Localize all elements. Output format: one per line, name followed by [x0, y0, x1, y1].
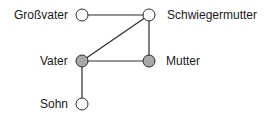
node-grossvater — [76, 9, 88, 21]
node-sohn — [76, 98, 88, 110]
node-vater — [76, 55, 88, 67]
node-schwiegermutter — [143, 9, 155, 21]
label-grossvater: Großvater — [14, 8, 68, 22]
label-schwiegermutter: Schwiegermutter — [167, 8, 257, 22]
edge-schwiegermutter-vater — [82, 15, 149, 61]
label-vater: Vater — [40, 54, 68, 68]
label-sohn: Sohn — [40, 97, 68, 111]
label-mutter: Mutter — [166, 54, 200, 68]
node-mutter — [143, 55, 155, 67]
edges — [82, 15, 149, 104]
nodes — [76, 9, 155, 110]
